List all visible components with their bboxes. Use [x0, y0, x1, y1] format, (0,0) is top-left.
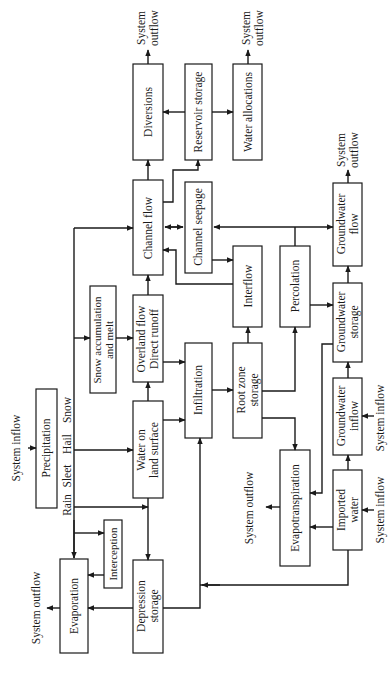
gw-inflow-system-inflow-label: System inflow — [374, 384, 387, 451]
reservoir-storage-label: Reservoir storage — [192, 72, 205, 153]
allocations-outflow-label-2: outflow — [253, 9, 265, 45]
evapotranspiration-label: Evapotranspiration — [289, 464, 302, 552]
diversions-node: Diversions — [133, 64, 163, 160]
imported-water-label-2: water — [348, 497, 360, 523]
water-allocations-label: Water allocations — [242, 72, 254, 152]
imported-water-node: Imported water — [333, 470, 362, 550]
groundwater-flow-label-1: Groundwater — [335, 194, 347, 255]
precipitation-label: Precipitation — [40, 418, 53, 477]
evapotranspiration-node: Evapotranspiration — [280, 450, 310, 566]
interflow-label: Interflow — [242, 264, 254, 307]
water-on-land-surface-node: Water on land surface — [133, 401, 163, 498]
allocations-outflow-label-1: System — [240, 11, 253, 45]
precipitation-node: Precipitation — [36, 389, 57, 508]
groundwater-flow-node: Groundwater flow — [333, 183, 362, 266]
groundwater-inflow-label-2: inflow — [348, 400, 360, 431]
hydrologic-system-diagram: Precipitation Rain Sleet Hail Snow Snow … — [0, 0, 391, 688]
overland-flow-label-2: Direct runoff — [148, 309, 160, 369]
depression-storage-label-2: storage — [148, 589, 161, 622]
infiltration-label: Infiltration — [192, 365, 204, 415]
evaporation-system-outflow-label: System outflow — [30, 571, 43, 644]
channel-seepage-node: Channel seepage — [185, 182, 212, 273]
reservoir-storage-node: Reservoir storage — [185, 64, 212, 160]
groundwater-storage-node: Groundwater storage — [333, 283, 362, 362]
diversions-outflow-label-1: System — [135, 11, 148, 45]
water-on-land-label-2: land surface — [148, 422, 160, 478]
overland-flow-node: Overland flow Direct runoff — [133, 295, 163, 382]
channel-flow-node: Channel flow — [133, 180, 163, 275]
root-zone-label-1: Root zone — [235, 367, 247, 414]
percolation-node: Percolation — [280, 246, 310, 327]
evaporation-label: Evaporation — [68, 578, 81, 634]
root-zone-storage-node: Root zone storage — [233, 343, 262, 438]
water-on-land-label-1: Water on — [135, 429, 147, 471]
groundwater-storage-label-1: Groundwater — [335, 292, 347, 353]
channel-seepage-label: Channel seepage — [192, 188, 205, 266]
interception-node: Interception — [104, 520, 122, 588]
imported-system-inflow-label: System inflow — [374, 476, 387, 543]
hail-label: Hail — [61, 434, 73, 454]
root-zone-label-2: storage — [248, 373, 261, 406]
water-allocations-node: Water allocations — [233, 64, 262, 160]
evapotranspiration-system-outflow-label: System outflow — [243, 471, 256, 544]
depression-storage-node: Depression storage — [133, 560, 163, 653]
evaporation-node: Evaporation — [60, 559, 88, 653]
snow-accumulation-label-1: Snow accumulation — [91, 296, 103, 384]
precip-system-inflow-label: System inflow — [10, 414, 23, 481]
gw-flow-outflow-label-2: outflow — [348, 131, 360, 167]
snow-label: Snow — [61, 396, 73, 423]
depression-storage-label-1: Depression — [135, 580, 148, 632]
snow-accumulation-label-2: and melt — [103, 321, 115, 359]
groundwater-inflow-label-1: Groundwater — [335, 386, 347, 447]
sleet-label: Sleet — [61, 464, 73, 488]
infiltration-node: Infiltration — [185, 343, 212, 438]
rain-label: Rain — [61, 494, 73, 516]
groundwater-storage-label-2: storage — [348, 305, 361, 338]
groundwater-inflow-node: Groundwater inflow — [333, 378, 362, 455]
diversions-outflow-label-2: outflow — [148, 9, 160, 45]
gw-flow-outflow-label-1: System — [335, 133, 348, 167]
snow-accumulation-node: Snow accumulation and melt — [90, 286, 116, 393]
overland-flow-label-1: Overland flow — [135, 305, 147, 372]
diversions-label: Diversions — [142, 87, 154, 137]
imported-water-label-1: Imported — [335, 489, 348, 531]
percolation-label: Percolation — [289, 260, 301, 313]
channel-flow-label: Channel flow — [142, 196, 154, 259]
interception-label: Interception — [107, 527, 119, 581]
groundwater-flow-label-2: flow — [348, 213, 360, 235]
interflow-node: Interflow — [233, 246, 262, 327]
